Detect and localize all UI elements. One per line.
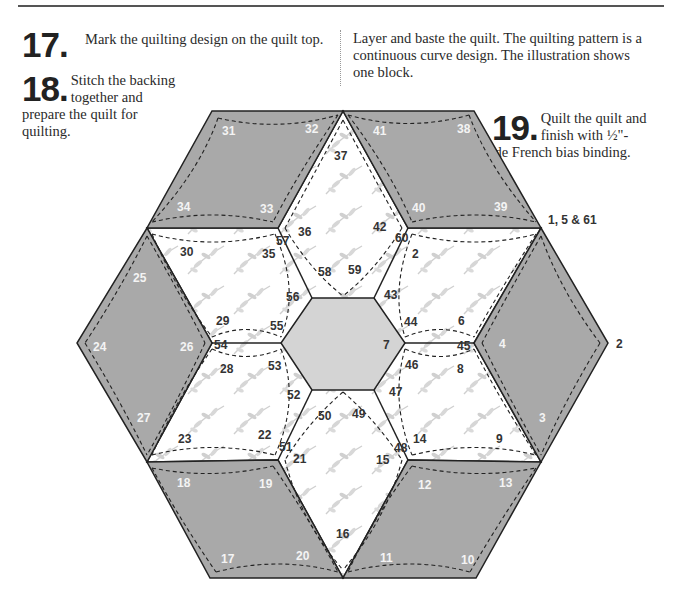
label-7: 7 — [383, 338, 390, 352]
label-21: 21 — [293, 452, 307, 466]
label-24: 24 — [93, 340, 107, 354]
label-50: 50 — [318, 409, 332, 423]
label-3: 3 — [539, 411, 546, 425]
label-6: 6 — [458, 314, 465, 328]
label-33: 33 — [260, 202, 274, 216]
label-23: 23 — [178, 432, 192, 446]
label-4: 4 — [499, 337, 506, 351]
label-59: 59 — [348, 263, 362, 277]
label-26: 26 — [180, 340, 194, 354]
label-22: 22 — [258, 428, 272, 442]
label-56: 56 — [286, 290, 300, 304]
label-29: 29 — [216, 314, 230, 328]
label-8: 8 — [457, 362, 464, 376]
quilt-block-diagram: 31 32 33 34 41 38 40 39 25 24 26 27 4 3 … — [0, 0, 683, 590]
label-35: 35 — [262, 247, 276, 261]
label-19: 19 — [259, 477, 273, 491]
label-2-outer: 2 — [616, 337, 623, 351]
label-60: 60 — [395, 231, 409, 245]
label-15: 15 — [376, 453, 390, 467]
label-2-inner: 2 — [412, 247, 419, 261]
label-11: 11 — [380, 551, 393, 565]
label-40: 40 — [412, 201, 426, 215]
label-46: 46 — [405, 358, 419, 372]
label-38: 38 — [457, 122, 471, 136]
label-16: 16 — [336, 527, 350, 541]
label-54: 54 — [214, 338, 228, 352]
label-18: 18 — [177, 476, 191, 490]
label-20: 20 — [296, 549, 310, 563]
label-17: 17 — [221, 552, 235, 566]
label-57: 57 — [276, 234, 290, 248]
label-47: 47 — [389, 385, 403, 399]
label-39: 39 — [494, 200, 508, 214]
label-55: 55 — [270, 319, 284, 333]
label-51: 51 — [279, 440, 293, 454]
label-53: 53 — [268, 359, 282, 373]
label-32: 32 — [305, 122, 319, 136]
label-9: 9 — [496, 432, 503, 446]
label-52: 52 — [287, 388, 301, 402]
label-41: 41 — [373, 124, 387, 138]
label-10: 10 — [461, 553, 475, 567]
label-45: 45 — [457, 339, 471, 353]
label-36: 36 — [298, 225, 312, 239]
label-37: 37 — [334, 149, 348, 163]
label-14: 14 — [413, 432, 427, 446]
label-43: 43 — [384, 288, 398, 302]
label-13: 13 — [499, 476, 513, 490]
label-27: 27 — [137, 411, 151, 425]
label-28: 28 — [220, 362, 234, 376]
label-48: 48 — [394, 441, 408, 455]
label-1-5-61: 1, 5 & 61 — [548, 213, 597, 227]
label-12: 12 — [418, 478, 432, 492]
label-58: 58 — [318, 265, 332, 279]
label-49: 49 — [352, 407, 366, 421]
label-30: 30 — [180, 245, 194, 259]
label-25: 25 — [133, 271, 147, 285]
label-44: 44 — [404, 315, 418, 329]
label-31: 31 — [222, 124, 236, 138]
label-42: 42 — [373, 220, 387, 234]
label-34: 34 — [177, 200, 191, 214]
